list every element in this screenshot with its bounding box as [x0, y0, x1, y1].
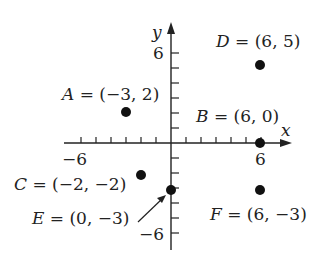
y-tick-label-neg6: −6: [139, 224, 164, 244]
x-tick-label-neg6: −6: [62, 149, 87, 169]
point-C-label: C = (−2, −2): [14, 174, 126, 194]
coordinate-plane: y x 6 −6 −6 6 D = (6, 5) A = (−3, 2) B =…: [0, 0, 329, 270]
y-tick-label-6: 6: [153, 43, 164, 63]
point-A: A = (−3, 2): [60, 84, 159, 117]
point-D: D = (6, 5): [215, 31, 300, 70]
point-B: B = (6, 0): [195, 106, 279, 148]
x-axis-label: x: [281, 120, 291, 140]
x-tick-label-6: 6: [255, 149, 266, 169]
point-F-label: F = (6, −3): [209, 204, 307, 224]
point-A-label: A = (−3, 2): [60, 84, 159, 104]
y-axis: [167, 22, 179, 250]
point-C: C = (−2, −2): [14, 170, 146, 194]
point-E-label: E = (0, −3): [31, 208, 129, 228]
point-D-label: D = (6, 5): [215, 31, 300, 51]
y-axis-label: y: [151, 22, 162, 42]
point-F: F = (6, −3): [209, 185, 307, 224]
point-B-label: B = (6, 0): [195, 106, 279, 126]
header-fragment: [0, 0, 329, 4]
